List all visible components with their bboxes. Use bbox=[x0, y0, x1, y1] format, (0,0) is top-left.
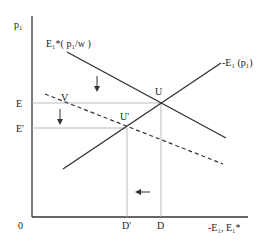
shift-diagram: p₁ -E₁, E₁* 0 E₁*( p₁/w ) -E₁ (p₁) U U' … bbox=[0, 0, 265, 242]
y-axis-label: p₁ bbox=[14, 19, 23, 30]
y-tick-E: E bbox=[16, 98, 22, 109]
shifted-demand-curve bbox=[45, 94, 223, 164]
supply-curve bbox=[63, 63, 221, 169]
point-V-label: V bbox=[61, 92, 69, 103]
point-U-prime-label: U' bbox=[120, 111, 129, 122]
origin-label: 0 bbox=[18, 220, 23, 231]
supply-curve-label: -E₁ (p₁) bbox=[222, 57, 253, 69]
x-tick-D-prime: D' bbox=[122, 220, 131, 231]
demand-curve bbox=[67, 52, 226, 138]
demand-curve-label: E₁*( p₁/w ) bbox=[46, 38, 91, 50]
x-axis-label: -E₁, E₁* bbox=[208, 222, 241, 233]
x-tick-D: D bbox=[157, 220, 164, 231]
y-tick-E-prime: E' bbox=[16, 123, 24, 134]
point-U-label: U bbox=[155, 86, 163, 97]
